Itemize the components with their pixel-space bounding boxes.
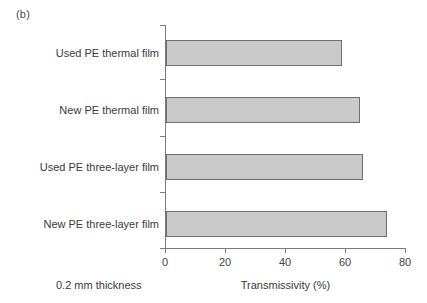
category-label-0: Used PE thermal film [56,47,159,59]
bar-new-pe-thermal-film [166,97,360,123]
x-axis-tick [285,248,286,253]
y-axis-tick [160,25,165,26]
category-label-3: New PE three-layer film [43,218,159,230]
y-axis-tick [160,136,165,137]
x-axis-tick-label-1: 20 [219,256,231,268]
category-label-2: Used PE three-layer film [40,161,159,173]
bar-new-pe-three-layer-film [166,211,387,237]
y-axis-tick [160,79,165,80]
x-axis-tick-label-3: 60 [339,256,351,268]
x-axis-tick [225,248,226,253]
x-axis-tick-label-0: 0 [162,256,168,268]
x-axis-tick [405,248,406,253]
x-axis-tick [165,248,166,253]
x-axis-title: Transmissivity (%) [165,279,406,291]
thickness-note: 0.2 mm thickness [56,279,142,291]
bar-used-pe-three-layer-film [166,154,363,180]
x-axis-tick-label-4: 80 [399,256,411,268]
category-label-1: New PE thermal film [59,104,159,116]
x-axis-tick [345,248,346,253]
bar-used-pe-thermal-film [166,40,342,66]
x-axis-tick-label-2: 40 [279,256,291,268]
bar-chart-plot: Used PE thermal film New PE thermal film… [0,0,427,303]
y-axis-tick [160,192,165,193]
